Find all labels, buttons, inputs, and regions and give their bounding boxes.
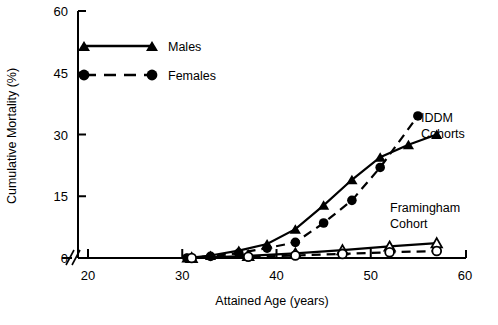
chart-annotations: IDDM Cohorts Framingham Cohort [390,111,465,231]
y-tick-label: 30 [54,128,68,143]
y-tick-label: 45 [54,66,68,81]
series-iddm-males [181,130,442,263]
x-tick-label: 20 [81,268,95,283]
data-point-filled-triangle-icon [375,152,386,162]
x-tick-label: 60 [458,268,472,283]
data-point-filled-circle-icon [375,163,385,173]
data-point-open-circle-icon [338,249,347,258]
data-point-filled-circle-icon [347,196,357,206]
data-point-open-circle-icon [244,252,253,261]
chart-legend: Males Females [78,40,216,83]
annotation-iddm-line2: Cohorts [421,127,465,141]
cumulative-mortality-line-chart: 015304560 2030405060 Males Females IDDM … [0,0,498,325]
x-axis-title: Attained Age (years) [215,294,328,308]
legend-marker-circle-icon [79,70,90,81]
data-point-filled-circle-icon [319,218,329,228]
data-point-open-circle-icon [432,247,441,256]
data-point-open-circle-icon [385,248,394,257]
x-tick-label: 40 [269,268,283,283]
legend-entry-females: Females [79,69,216,83]
series-line [187,135,437,259]
series-iddm-females [182,111,423,263]
legend-label-females: Females [168,69,216,83]
data-point-open-circle-icon [187,254,196,263]
y-tick-label: 15 [54,189,68,204]
data-point-filled-triangle-icon [403,140,414,150]
series-line [187,116,418,258]
y-axis-ticks: 015304560 [54,4,86,266]
data-point-filled-circle-icon [291,238,301,248]
x-tick-label: 30 [175,268,189,283]
legend-label-males: Males [168,40,201,54]
data-series-layer [181,111,442,263]
data-point-open-circle-icon [291,251,300,260]
annotation-framingham-line2: Cohort [390,217,428,231]
y-axis-title: Cumulative Mortality (%) [5,68,19,204]
legend-marker-circle-icon [147,70,158,81]
data-point-filled-circle-icon [262,243,272,253]
y-tick-label: 0 [61,251,68,266]
x-tick-label: 50 [364,268,378,283]
y-tick-label: 60 [54,4,68,19]
legend-entry-males: Males [78,40,201,54]
annotation-framingham-line1: Framingham [390,201,460,215]
chart-figure: 015304560 2030405060 Males Females IDDM … [0,0,498,325]
annotation-iddm-line1: IDDM [421,111,453,125]
